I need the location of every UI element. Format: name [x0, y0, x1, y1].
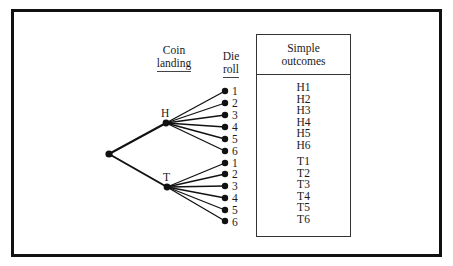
header-line: Coin — [148, 44, 200, 57]
simple-outcomes-table: Simple outcomes H1 H2 H3 H4 H5 H6 T1 T2 … — [256, 34, 351, 237]
outcome-item: H1 — [257, 82, 350, 94]
die-face-label: 5 — [232, 204, 238, 216]
root-node — [105, 150, 112, 157]
tails-label: T — [163, 171, 170, 183]
die-face-label: 6 — [232, 216, 238, 228]
die-face-label: 2 — [232, 168, 238, 180]
die-face-label: 1 — [232, 85, 238, 97]
die-face-label: 3 — [232, 180, 238, 192]
header-line: Die — [216, 50, 246, 63]
outcome-item: H6 — [257, 140, 350, 152]
outcome-item: T3 — [257, 179, 350, 191]
outcome-item: H5 — [257, 128, 350, 140]
die-face-label: 4 — [232, 121, 238, 133]
die-face-label: 2 — [232, 97, 238, 109]
simple-outcomes-header: Simple outcomes — [257, 35, 350, 75]
header-line: roll — [223, 63, 239, 78]
heads-node — [163, 120, 170, 127]
outcomes-list: H1 H2 H3 H4 H5 H6 T1 T2 T3 T4 T5 T6 — [257, 75, 350, 225]
heads-label: H — [161, 107, 169, 119]
outcome-item: T1 — [257, 156, 350, 168]
header-line: landing — [157, 57, 192, 72]
die-face-label: 3 — [232, 109, 238, 121]
tails-node — [164, 184, 171, 191]
tree-diagram — [0, 0, 453, 266]
outcome-item: T5 — [257, 202, 350, 214]
die-face-label: 6 — [232, 145, 238, 157]
header-line: outcomes — [257, 55, 350, 68]
die-roll-header: Die roll — [216, 50, 246, 78]
header-line: Simple — [257, 42, 350, 55]
die-face-label: 4 — [232, 192, 238, 204]
coin-landing-header: Coin landing — [148, 44, 200, 72]
outcome-item: H3 — [257, 105, 350, 117]
die-face-label: 5 — [232, 133, 238, 145]
outcome-item: T6 — [257, 214, 350, 226]
